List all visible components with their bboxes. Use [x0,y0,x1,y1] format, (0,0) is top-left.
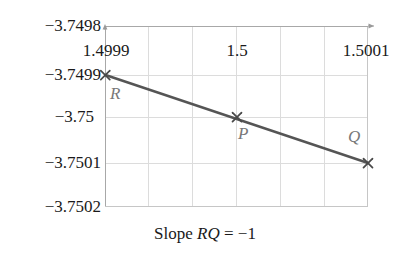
y-tick-label: −3.7502 [45,198,101,215]
gridline-horizontal [105,75,368,76]
data-point-label-q: Q [348,128,360,145]
x-tick-label: 1.5001 [322,42,410,59]
data-point-label-p: P [238,125,248,142]
x-tick-label: 1.5 [193,42,281,59]
caption-prefix: Slope [154,224,197,243]
y-tick-label: −3.7498 [45,17,101,34]
gridline-horizontal [105,163,368,164]
x-tick-label: 1.4999 [62,42,150,59]
y-tick-label: −3.7501 [45,154,101,171]
axis-arrow-right [368,23,374,28]
axis-top [105,26,368,27]
axis-bottom [105,206,368,207]
gridline-horizontal [105,117,368,118]
chart-caption: Slope RQ = −1 [0,224,410,244]
figure-container: −3.7498 −3.7499 −3.75 −3.7501 −3.7502 1.… [0,0,410,265]
caption-symbol: RQ [197,224,220,243]
data-point-label-r: R [110,85,120,102]
y-tick-label: −3.7499 [45,66,101,83]
y-tick-label: −3.75 [55,108,94,125]
caption-equals: = −1 [220,224,256,243]
